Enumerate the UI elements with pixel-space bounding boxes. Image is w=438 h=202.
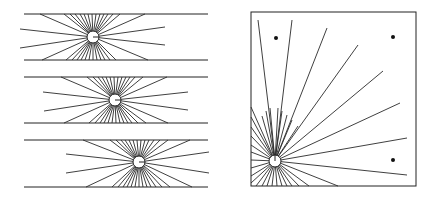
ray-line xyxy=(115,92,188,100)
band-3 xyxy=(24,140,209,187)
band-2 xyxy=(24,77,208,123)
ray-line xyxy=(275,71,383,161)
point-marker xyxy=(274,36,278,40)
right-panel-box xyxy=(251,12,416,186)
point-marker xyxy=(391,158,395,162)
ray-line xyxy=(275,161,407,175)
ray-line xyxy=(43,92,115,100)
ray-line xyxy=(20,29,93,37)
ray-line xyxy=(93,37,165,45)
band-1 xyxy=(20,14,208,60)
ray-diagram xyxy=(0,0,438,202)
ray-line xyxy=(139,162,209,173)
point-marker xyxy=(391,35,395,39)
ray-line xyxy=(275,45,358,161)
left-panel-bands xyxy=(20,14,209,187)
ray-line xyxy=(275,138,407,161)
diagram-stage xyxy=(0,0,438,202)
